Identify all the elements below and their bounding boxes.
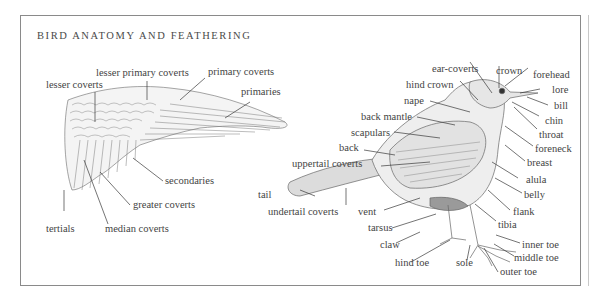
label-sole: sole (456, 258, 473, 269)
bird-illustration (288, 80, 538, 266)
label-primary-coverts: primary coverts (208, 67, 274, 78)
label-lore: lore (552, 85, 568, 96)
label-lesser-primary-coverts: lesser primary coverts (96, 68, 189, 79)
label-outer-toe: outer toe (500, 267, 537, 278)
label-uppertail-coverts: uppertail coverts (292, 159, 362, 170)
label-hind-toe: hind toe (395, 258, 429, 269)
label-undertail-coverts: undertail coverts (268, 207, 338, 218)
label-vent: vent (358, 207, 376, 218)
label-tertials: tertials (46, 224, 75, 235)
label-hind-crown: hind crown (406, 80, 454, 91)
label-alula: alula (526, 175, 546, 186)
label-claw: claw (380, 240, 400, 251)
illustration-layer (0, 0, 594, 303)
label-back-mantle: back mantle (361, 112, 412, 123)
label-belly: belly (524, 190, 545, 201)
label-middle-toe: middle toe (514, 253, 559, 264)
label-flank: flank (513, 207, 535, 218)
label-primaries: primaries (241, 87, 281, 98)
label-ear-coverts: ear-coverts (432, 64, 478, 75)
label-back: back (339, 143, 359, 154)
label-crown: crown (496, 66, 522, 77)
label-nape: nape (404, 96, 424, 107)
label-foreneck: foreneck (535, 144, 572, 155)
label-tarsus: tarsus (368, 223, 393, 234)
label-secondaries: secondaries (165, 176, 214, 187)
label-lesser-coverts: lesser coverts (46, 80, 103, 91)
label-chin: chin (545, 116, 563, 127)
label-median-coverts: median coverts (105, 224, 169, 235)
label-inner-toe: inner toe (522, 240, 559, 251)
label-greater-coverts: greater coverts (133, 200, 195, 211)
label-throat: throat (539, 130, 564, 141)
label-scapulars: scapulars (351, 128, 390, 139)
label-bill: bill (554, 101, 568, 112)
label-tail: tail (258, 190, 271, 201)
label-forehead: forehead (533, 70, 570, 81)
label-breast: breast (527, 158, 552, 169)
label-tibia: tibia (498, 220, 517, 231)
